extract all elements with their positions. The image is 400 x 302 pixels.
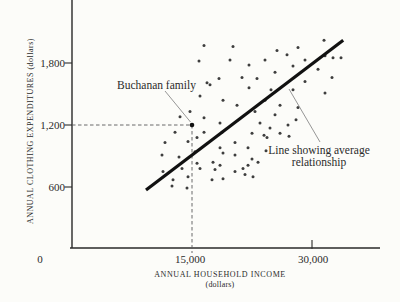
data-point	[222, 151, 225, 154]
data-point	[187, 140, 190, 143]
dashed-guide-lines	[72, 125, 192, 253]
data-point	[203, 44, 206, 47]
buchanan-point	[190, 123, 195, 128]
data-point	[199, 95, 202, 98]
data-point	[324, 91, 327, 94]
trend-line-annotation-line2: relationship	[292, 156, 346, 168]
scatter-plot-figure: 1,800 1,200 600 0 15,000 30,000 ANNUAL H…	[0, 0, 400, 302]
trend-line-annotation-line1: Line showing average	[268, 144, 370, 156]
origin-label: 0	[34, 253, 46, 265]
data-point	[247, 164, 250, 167]
data-point	[219, 121, 222, 124]
data-point	[218, 77, 221, 80]
data-point	[279, 104, 282, 107]
data-point	[254, 110, 257, 113]
data-point	[266, 136, 269, 139]
data-point	[263, 134, 266, 137]
data-point	[252, 175, 255, 178]
data-point	[292, 65, 295, 68]
trend-callout-line	[289, 89, 320, 142]
data-point	[234, 141, 237, 144]
data-point	[178, 156, 181, 159]
data-point	[241, 76, 244, 79]
data-point	[286, 53, 289, 56]
y-axis-title: ANNUAL CLOTHING EXPENDITURES (dollars)	[27, 38, 36, 224]
data-point	[242, 167, 245, 170]
data-point	[211, 178, 214, 181]
data-point	[234, 153, 237, 156]
data-point	[186, 187, 189, 190]
data-point	[174, 131, 177, 134]
data-point	[236, 104, 239, 107]
data-point	[304, 58, 307, 61]
data-point	[209, 83, 212, 86]
data-point	[234, 170, 237, 173]
data-point	[251, 132, 254, 135]
data-point	[340, 56, 343, 59]
data-point	[162, 170, 165, 173]
data-point	[199, 167, 202, 170]
data-point	[203, 116, 206, 119]
data-point	[187, 175, 190, 178]
data-point	[317, 68, 320, 71]
data-point	[179, 115, 182, 118]
data-point	[297, 46, 300, 49]
data-point	[287, 124, 290, 127]
data-point	[276, 49, 279, 52]
data-point	[269, 127, 272, 130]
data-point	[332, 56, 335, 59]
data-point	[274, 71, 277, 74]
buchanan-callout-line	[165, 91, 191, 122]
data-point	[232, 45, 235, 48]
data-point	[196, 136, 199, 139]
data-point	[323, 39, 326, 42]
axes	[70, 0, 380, 248]
data-point	[198, 59, 201, 62]
data-point	[292, 88, 295, 91]
data-point	[172, 178, 175, 181]
data-point	[196, 162, 199, 165]
data-point	[247, 146, 250, 149]
data-point	[270, 88, 273, 91]
x-tick-label-15000: 15,000	[164, 253, 216, 265]
data-point	[248, 86, 251, 89]
data-point	[259, 121, 262, 124]
x-tick-label-30000: 30,000	[287, 253, 339, 265]
trend-line-annotation: Line showing average relationship	[254, 145, 384, 168]
data-point	[164, 141, 167, 144]
data-point	[181, 167, 184, 170]
x-axis-subtitle: (dollars)	[118, 281, 322, 290]
data-point	[219, 146, 222, 149]
data-point	[222, 99, 225, 102]
data-point	[161, 153, 164, 156]
x-axis-title: ANNUAL HOUSEHOLD INCOME	[118, 271, 322, 280]
data-point	[229, 58, 232, 61]
data-point	[274, 113, 277, 116]
data-point	[219, 164, 222, 167]
data-point	[222, 177, 225, 180]
data-point	[304, 80, 307, 83]
data-point	[171, 184, 174, 187]
data-point	[214, 168, 217, 171]
data-point	[248, 64, 251, 67]
data-point	[206, 81, 209, 84]
data-point	[279, 132, 282, 135]
data-point	[189, 110, 192, 113]
data-point	[295, 118, 298, 121]
data-point	[288, 135, 291, 138]
data-point	[203, 131, 206, 134]
buchanan-family-annotation: Buchanan family	[117, 79, 196, 92]
data-point	[212, 161, 215, 164]
data-point	[244, 173, 247, 176]
data-point	[256, 77, 259, 80]
data-point	[264, 58, 267, 61]
data-point	[331, 76, 334, 79]
